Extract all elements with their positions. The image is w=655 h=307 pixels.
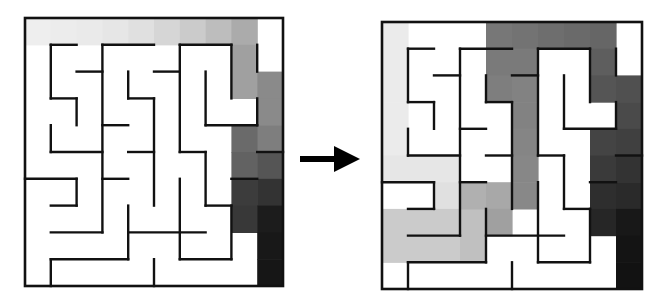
shaded-cell <box>512 182 539 209</box>
shaded-cell <box>382 209 409 236</box>
shaded-cell <box>102 18 128 45</box>
shaded-cell <box>128 18 154 45</box>
shaded-cell <box>257 125 283 152</box>
shaded-cell <box>231 18 257 45</box>
shaded-cell <box>231 72 257 99</box>
shaded-cell <box>382 129 409 156</box>
maze-before <box>23 16 285 288</box>
shaded-cell <box>512 156 539 183</box>
shaded-cell <box>590 129 617 156</box>
shaded-cell <box>434 209 461 236</box>
shaded-cell <box>382 75 409 102</box>
shaded-cell <box>616 262 643 289</box>
shaded-cell <box>590 156 617 183</box>
shaded-cell <box>616 182 643 209</box>
shaded-cell <box>616 236 643 263</box>
shaded-cell <box>434 236 461 263</box>
shaded-cell <box>382 236 409 263</box>
shaded-cell <box>538 22 565 49</box>
shaded-cell <box>231 206 257 233</box>
shaded-cell <box>590 49 617 76</box>
shaded-cell <box>616 129 643 156</box>
shaded-cell <box>512 75 539 102</box>
shaded-cell <box>154 18 180 45</box>
shaded-cell <box>257 232 283 259</box>
shaded-cell <box>408 209 435 236</box>
shaded-cell <box>486 75 513 102</box>
shaded-cell <box>590 75 617 102</box>
shaded-cell <box>590 182 617 209</box>
shaded-cell <box>460 236 487 263</box>
shaded-cell <box>486 209 513 236</box>
shaded-cell <box>257 72 283 99</box>
maze-after <box>380 20 644 291</box>
shaded-cell <box>382 49 409 76</box>
shaded-cell <box>512 129 539 156</box>
shaded-cell <box>382 102 409 129</box>
shaded-cell <box>486 22 513 49</box>
shaded-cell <box>512 49 539 76</box>
shaded-cell <box>486 49 513 76</box>
shaded-cell <box>257 152 283 179</box>
shaded-cell <box>590 22 617 49</box>
shaded-cell <box>434 182 461 209</box>
shaded-cell <box>25 18 51 45</box>
shaded-cell <box>51 18 77 45</box>
shaded-cell <box>460 209 487 236</box>
shaded-cell <box>590 209 617 236</box>
shaded-cell <box>257 98 283 125</box>
shaded-cell <box>564 22 591 49</box>
shaded-cell <box>231 152 257 179</box>
shaded-cell <box>616 75 643 102</box>
shaded-cell <box>382 156 409 183</box>
shaded-cell <box>616 102 643 129</box>
shaded-cell <box>257 206 283 233</box>
shaded-cell <box>231 179 257 206</box>
shaded-cell <box>512 22 539 49</box>
shaded-cell <box>231 45 257 72</box>
shaded-cell <box>616 156 643 183</box>
shaded-cell <box>616 209 643 236</box>
shaded-cell <box>257 179 283 206</box>
shaded-cell <box>382 22 409 49</box>
shaded-cell <box>460 182 487 209</box>
shaded-cell <box>206 18 232 45</box>
shaded-cell <box>486 182 513 209</box>
shaded-cell <box>77 18 103 45</box>
shaded-cell <box>512 102 539 129</box>
shaded-cell <box>408 236 435 263</box>
shaded-cell <box>180 18 206 45</box>
shaded-cell <box>408 156 435 183</box>
shaded-cell <box>434 156 461 183</box>
shaded-cell <box>257 259 283 286</box>
right-arrow-icon <box>298 144 362 174</box>
shaded-cell <box>231 125 257 152</box>
